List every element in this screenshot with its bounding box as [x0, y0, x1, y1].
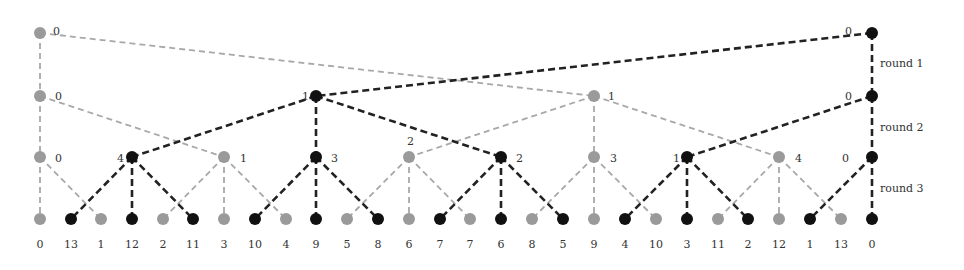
- gray-node: [157, 213, 169, 225]
- nodes-layer: [34, 27, 878, 225]
- node-label: 3: [331, 152, 338, 165]
- black-node: [866, 213, 878, 225]
- node-label: 1: [608, 90, 615, 103]
- leaf-label: 11: [711, 238, 725, 251]
- gray-node: [403, 213, 415, 225]
- gray-edge: [779, 157, 841, 219]
- black-node: [372, 213, 384, 225]
- gray-node: [526, 213, 538, 225]
- round-label: round 1: [880, 57, 924, 70]
- black-edge: [501, 157, 563, 219]
- edges-layer: [40, 33, 872, 219]
- black-node: [866, 90, 878, 102]
- gray-node: [588, 90, 600, 102]
- gray-edge: [409, 96, 594, 157]
- gray-node: [34, 151, 46, 163]
- black-edge: [687, 157, 748, 219]
- leaf-label: 0: [869, 238, 876, 251]
- black-edge: [316, 157, 378, 219]
- black-edge: [71, 157, 132, 219]
- leaf-label: 0: [37, 238, 44, 251]
- leaf-label: 10: [248, 238, 262, 251]
- black-edge: [810, 157, 872, 219]
- black-node: [187, 213, 199, 225]
- node-label: 0: [55, 152, 62, 165]
- black-edge: [625, 157, 687, 219]
- gray-edge: [40, 33, 594, 96]
- node-label: 2: [407, 135, 414, 148]
- black-node: [310, 151, 322, 163]
- node-label: 4: [795, 152, 802, 165]
- node-label: 1: [673, 152, 680, 165]
- node-label: 0: [53, 25, 60, 38]
- black-node: [310, 213, 322, 225]
- leaf-label: 9: [591, 238, 598, 251]
- leaf-label: 2: [745, 238, 752, 251]
- black-edge: [440, 157, 501, 219]
- gray-node: [280, 213, 292, 225]
- black-node: [557, 213, 569, 225]
- leaf-label: 5: [560, 238, 567, 251]
- leaf-label: 6: [406, 238, 413, 251]
- node-label: 4: [117, 152, 124, 165]
- gray-node: [464, 213, 476, 225]
- black-node: [434, 213, 446, 225]
- gray-edge: [347, 157, 409, 219]
- black-node: [681, 151, 693, 163]
- leaf-label: 5: [344, 238, 351, 251]
- gray-edge: [224, 157, 286, 219]
- black-node: [495, 213, 507, 225]
- gray-node: [34, 213, 46, 225]
- leaf-label: 4: [283, 238, 290, 251]
- node-label: 1: [302, 90, 309, 103]
- black-node: [866, 27, 878, 39]
- black-node: [681, 213, 693, 225]
- node-label: 0: [845, 25, 852, 38]
- leaf-label: 12: [125, 238, 139, 251]
- gray-node: [588, 151, 600, 163]
- gray-node: [650, 213, 662, 225]
- node-label: 3: [610, 152, 617, 165]
- black-edge: [687, 96, 872, 157]
- leaf-label: 10: [649, 238, 663, 251]
- black-node: [495, 151, 507, 163]
- black-edge: [316, 33, 872, 96]
- gray-node: [95, 213, 107, 225]
- gray-edge: [409, 157, 470, 219]
- gray-edge: [163, 157, 224, 219]
- leaf-label: 1: [98, 238, 105, 251]
- gray-node: [341, 213, 353, 225]
- leaf-label: 2: [160, 238, 167, 251]
- gray-edge: [594, 157, 656, 219]
- leaf-label: 6: [498, 238, 505, 251]
- black-edge: [132, 157, 193, 219]
- gray-edge: [532, 157, 594, 219]
- leaf-label: 13: [64, 238, 78, 251]
- round-tree-diagram: 0001100413223140013112211310495867768594…: [0, 0, 964, 270]
- gray-node: [34, 27, 46, 39]
- node-label: 0: [55, 90, 62, 103]
- gray-node: [835, 213, 847, 225]
- gray-edge: [40, 96, 224, 157]
- leaf-label: 7: [467, 238, 474, 251]
- black-node: [65, 213, 77, 225]
- leaf-label: 8: [529, 238, 536, 251]
- node-label: 0: [845, 90, 852, 103]
- round-label: round 2: [880, 121, 924, 134]
- gray-edge: [718, 157, 779, 219]
- leaf-label: 13: [834, 238, 848, 251]
- gray-node: [218, 213, 230, 225]
- black-edge: [255, 157, 316, 219]
- black-node: [804, 213, 816, 225]
- leaf-label: 8: [375, 238, 382, 251]
- gray-node: [218, 151, 230, 163]
- gray-node: [773, 151, 785, 163]
- node-label: 1: [240, 152, 247, 165]
- gray-node: [712, 213, 724, 225]
- black-node: [619, 213, 631, 225]
- leaf-label: 12: [772, 238, 786, 251]
- leaf-label: 3: [684, 238, 691, 251]
- leaf-label: 11: [186, 238, 200, 251]
- leaf-label: 3: [221, 238, 228, 251]
- black-node: [126, 151, 138, 163]
